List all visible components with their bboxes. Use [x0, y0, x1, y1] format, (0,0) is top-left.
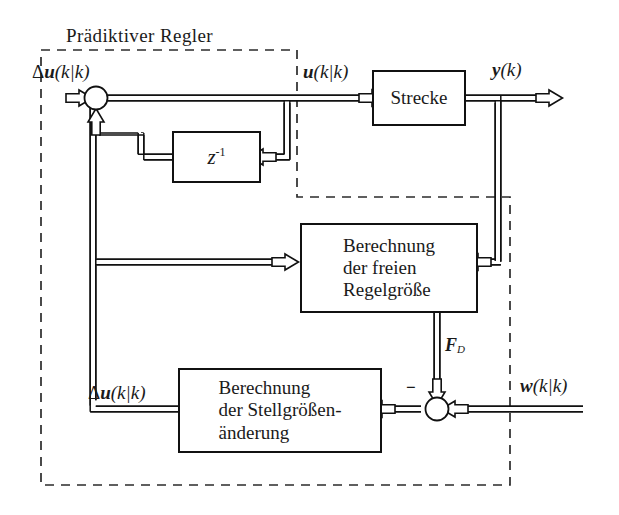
summing-junction-top: [85, 87, 108, 110]
block-control-increment[interactable]: Berechnung der Stellgrößen- änderung: [178, 368, 382, 453]
signal-label-fd: FD: [445, 336, 465, 355]
sign-minus-at-junction: −: [406, 379, 416, 396]
controller-boundary-label: Prädiktiver Regler: [66, 26, 213, 45]
signal-label-w-reference: w(k|k): [520, 376, 567, 395]
summing-junction-bottom: [426, 398, 449, 421]
block-plant[interactable]: Strecke: [372, 70, 466, 126]
block-free-response-label: Berechnung der freien Regelgröße: [339, 235, 439, 301]
signal-label-y-out: y(k): [492, 60, 522, 79]
block-delay-label: z-1: [203, 145, 229, 169]
block-diagram-canvas: Prädiktiver Regler Strecke z-1 Berechnun…: [0, 0, 619, 515]
block-free-response[interactable]: Berechnung der freien Regelgröße: [300, 223, 478, 313]
arrow-into-free-response-left: [272, 254, 299, 270]
block-control-increment-label: Berechnung der Stellgrößen- änderung: [215, 377, 346, 443]
signal-label-u-plant-in: u(k|k): [303, 62, 348, 81]
signal-label-delta-u-top: Δu(k|k): [32, 62, 90, 81]
signal-label-delta-u-bottom: Δu(k|k): [88, 383, 146, 402]
arrow-output-y: [536, 90, 563, 106]
block-delay[interactable]: z-1: [172, 131, 261, 183]
block-plant-label: Strecke: [387, 87, 452, 109]
